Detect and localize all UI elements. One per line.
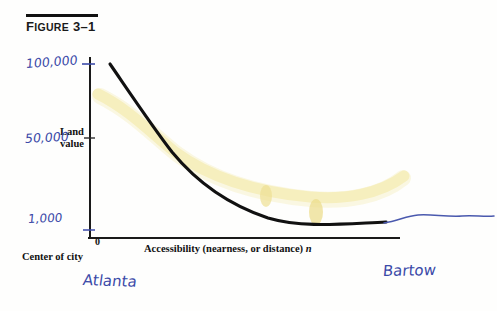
highlighter-stroke-soft — [100, 96, 403, 200]
handwritten-y-mid-value: 50,000 — [24, 129, 70, 146]
x-axis-title: Accessibility (nearness, or distance) n — [144, 243, 312, 254]
hand-drawn-extension — [384, 215, 494, 223]
center-of-city-label: Center of city — [22, 251, 83, 262]
origin-label: 0 — [95, 236, 100, 247]
figure-panel: FIGURE 3–1 Land value Accessibility (nea… — [0, 0, 497, 311]
highlighter-dab-1 — [260, 185, 272, 207]
handwritten-place-left: Atlanta — [82, 271, 138, 291]
highlighter-dab-2 — [309, 199, 323, 225]
x-axis-title-text: Accessibility (nearness, or distance) — [144, 243, 306, 254]
handwritten-y-bottom-value: 1,000 — [27, 211, 63, 226]
handwritten-place-right: Bartow — [382, 261, 437, 280]
x-axis-variable: n — [306, 243, 312, 254]
